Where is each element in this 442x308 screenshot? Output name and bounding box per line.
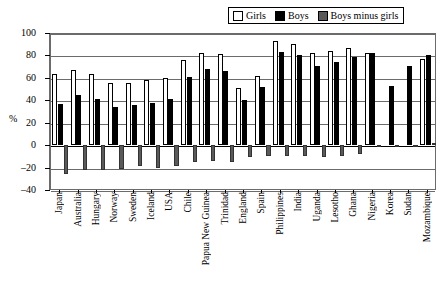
bar-group bbox=[234, 33, 252, 190]
x-axis-label-usa: USA bbox=[164, 192, 174, 211]
bar-group bbox=[50, 33, 68, 190]
bar-group bbox=[381, 33, 399, 190]
bar-boys bbox=[407, 66, 412, 146]
legend-swatch-difference-icon bbox=[318, 11, 328, 21]
legend-label-difference: Boys minus girls bbox=[331, 10, 399, 21]
bar-boys bbox=[205, 69, 210, 145]
bar-boys bbox=[334, 62, 339, 145]
bar-girls bbox=[328, 51, 333, 145]
x-axis-label-ghana: Ghana bbox=[348, 192, 358, 217]
y-tick-label-0: 0 bbox=[31, 140, 36, 150]
bar-groups bbox=[50, 33, 436, 190]
bar-boys bbox=[242, 100, 247, 145]
bar-girls bbox=[291, 44, 296, 145]
bar-boys bbox=[168, 99, 173, 145]
bar-girls bbox=[144, 80, 149, 145]
x-axis-label-australia: Australia bbox=[73, 192, 83, 227]
bar-group bbox=[344, 33, 362, 190]
bar-group bbox=[142, 33, 160, 190]
bar-group bbox=[326, 33, 344, 190]
legend-label-boys: Boys bbox=[288, 10, 309, 21]
x-axis-label-norway: Norway bbox=[109, 192, 119, 223]
x-axis-label-iceland: Iceland bbox=[146, 192, 156, 220]
bar-boys bbox=[113, 107, 118, 145]
y-tick-label--40: –40 bbox=[21, 185, 36, 195]
x-axis-label-uganda: Uganda bbox=[312, 192, 322, 222]
bar-group bbox=[289, 33, 307, 190]
bar-group bbox=[399, 33, 417, 190]
bar-girls bbox=[310, 53, 315, 145]
bar-boys bbox=[187, 77, 192, 145]
bar-group bbox=[362, 33, 380, 190]
bar-group bbox=[252, 33, 270, 190]
bar-girls bbox=[126, 83, 131, 145]
bar-girls bbox=[255, 76, 260, 146]
bar-boys bbox=[426, 55, 431, 145]
bar-group bbox=[160, 33, 178, 190]
bar-girls bbox=[346, 48, 351, 146]
bar-boys bbox=[58, 104, 63, 145]
y-axis: 100806040200–20–40 bbox=[38, 33, 50, 190]
y-tick-label-40: 40 bbox=[26, 95, 36, 105]
bar-group bbox=[68, 33, 86, 190]
bar-girls bbox=[199, 53, 204, 145]
chart-legend: Girls Boys Boys minus girls bbox=[228, 7, 404, 24]
x-axis-label-papua-new-guinea: Papua New Guinea bbox=[201, 192, 211, 265]
bar-girls bbox=[163, 78, 168, 145]
bar-boys bbox=[223, 71, 228, 145]
bar-girls bbox=[218, 54, 223, 145]
x-axis-label-england: England bbox=[238, 192, 248, 224]
y-tick-label-80: 80 bbox=[26, 50, 36, 60]
bar-boys bbox=[279, 52, 284, 145]
bar-group bbox=[179, 33, 197, 190]
x-axis-label-spain: Spain bbox=[256, 192, 266, 214]
x-axis-label-japan: Japan bbox=[54, 192, 64, 214]
bar-boys bbox=[132, 105, 137, 145]
bar-difference bbox=[432, 143, 436, 145]
bar-boys bbox=[260, 87, 265, 145]
bar-group bbox=[105, 33, 123, 190]
y-axis-title: % bbox=[9, 113, 17, 124]
bar-group bbox=[124, 33, 142, 190]
bar-girls bbox=[52, 74, 57, 145]
bar-girls bbox=[71, 70, 76, 145]
legend-item-girls: Girls bbox=[233, 10, 266, 21]
x-axis-label-nigeria: Nigeria bbox=[367, 192, 377, 221]
y-tick-label-60: 60 bbox=[26, 73, 36, 83]
bar-group bbox=[197, 33, 215, 190]
x-axis-label-sudan: Sudan bbox=[403, 192, 413, 216]
legend-swatch-boys-icon bbox=[275, 11, 285, 21]
x-axis-label-philippines: Philippines bbox=[275, 192, 285, 235]
bar-boys bbox=[150, 103, 155, 146]
legend-item-boys: Boys bbox=[275, 10, 309, 21]
bar-group bbox=[87, 33, 105, 190]
bar-girls bbox=[108, 83, 113, 145]
x-axis-label-hungary: Hungary bbox=[91, 192, 101, 225]
y-tick-label--20: –20 bbox=[21, 163, 36, 173]
y-tick-label-20: 20 bbox=[26, 118, 36, 128]
x-axis-label-trinidad: Trinidad bbox=[220, 192, 230, 224]
bar-boys bbox=[297, 55, 302, 145]
x-axis-labels: JapanAustraliaHungaryNorwaySwedenIceland… bbox=[50, 192, 436, 304]
x-axis-label-sweden: Sweden bbox=[128, 192, 138, 222]
bar-boys bbox=[315, 66, 320, 146]
bar-girls bbox=[420, 59, 425, 145]
bar-boys bbox=[95, 99, 100, 145]
bar-boys bbox=[76, 95, 81, 145]
x-axis-label-lesotho: Lesotho bbox=[330, 192, 340, 223]
bar-group bbox=[307, 33, 325, 190]
legend-swatch-girls-icon bbox=[233, 11, 243, 21]
y-tick-label-100: 100 bbox=[21, 28, 36, 38]
bar-girls bbox=[273, 41, 278, 145]
bar-girls bbox=[365, 53, 370, 145]
legend-item-difference: Boys minus girls bbox=[318, 10, 399, 21]
bar-girls bbox=[236, 88, 241, 145]
x-axis-label-chile: Chile bbox=[183, 192, 193, 213]
bar-group bbox=[215, 33, 233, 190]
bar-boys bbox=[352, 57, 357, 146]
bar-boys bbox=[370, 53, 375, 145]
bar-girls bbox=[89, 74, 94, 145]
bar-boys bbox=[389, 86, 394, 145]
chart-page: Girls Boys Boys minus girls % 1008060402… bbox=[0, 0, 442, 308]
x-axis-label-korea: Korea bbox=[385, 192, 395, 215]
